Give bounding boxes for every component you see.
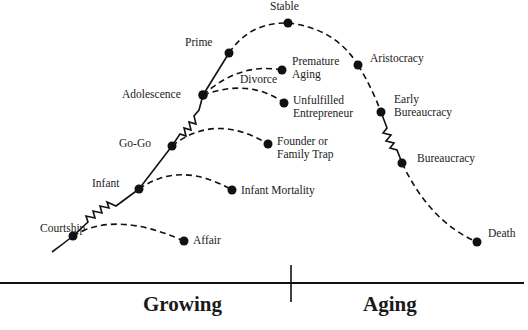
label-unfulfilled-line2: Entrepreneur (293, 107, 353, 120)
node-adolescence (198, 90, 208, 100)
label-courtship: Courtship (40, 222, 85, 235)
label-premature-aging-line1: Premature (292, 55, 339, 68)
label-early-bureaucracy-line2: Bureaucracy (394, 106, 452, 119)
affair-path (73, 224, 184, 241)
label-infant: Infant (92, 177, 119, 190)
lifecycle-diagram (0, 0, 528, 330)
label-founder-trap-line2: Family Trap (277, 148, 334, 161)
node-infant-mortality (228, 186, 237, 195)
node-death (473, 238, 482, 247)
unfulfilled-path (203, 88, 284, 103)
node-bureaucracy (398, 159, 407, 168)
label-affair: Affair (193, 234, 221, 247)
label-bureaucracy: Bureaucracy (417, 152, 475, 165)
node-founder-trap (264, 140, 273, 149)
label-infant-mortality: Infant Mortality (241, 184, 315, 197)
node-unfulfilled (280, 99, 289, 108)
axis-label-growing: Growing (143, 292, 222, 317)
node-aristocracy (354, 61, 363, 70)
node-stable (284, 19, 293, 28)
label-premature-aging-line2: Aging (292, 68, 339, 81)
label-stable: Stable (270, 0, 299, 13)
label-unfulfilled: Unfulfilled Entrepreneur (293, 94, 353, 120)
label-death: Death (488, 227, 515, 240)
label-adolescence: Adolescence (122, 88, 181, 101)
label-divorce: Divorce (240, 73, 277, 86)
bureaucracy-death-arc (402, 163, 477, 242)
gogo-adolescence-segment (172, 95, 203, 146)
infant-gogo-segment (139, 146, 172, 189)
node-gogo (168, 142, 177, 151)
label-founder-trap: Founder or Family Trap (277, 135, 334, 161)
label-aristocracy: Aristocracy (370, 52, 424, 65)
node-prime (225, 49, 234, 58)
aristocracy-earlybureaucracy-arc (358, 65, 381, 112)
label-early-bureaucracy-line1: Early (394, 93, 452, 106)
node-affair (180, 237, 189, 246)
label-prime: Prime (185, 36, 212, 49)
axis-label-aging: Aging (363, 292, 417, 317)
node-early-bureaucracy (377, 108, 386, 117)
label-early-bureaucracy: Early Bureaucracy (394, 93, 452, 119)
node-infant (135, 185, 144, 194)
label-unfulfilled-line1: Unfulfilled (293, 94, 353, 107)
node-premature-aging (278, 66, 287, 75)
infant-mortality-path (139, 175, 232, 190)
prime-stable-arc (229, 23, 288, 53)
label-gogo: Go-Go (119, 137, 151, 150)
founder-trap-path (172, 128, 268, 146)
label-premature-aging: Premature Aging (292, 55, 339, 81)
label-founder-trap-line1: Founder or (277, 135, 334, 148)
earlybureaucracy-bureaucracy-segment (381, 112, 402, 163)
